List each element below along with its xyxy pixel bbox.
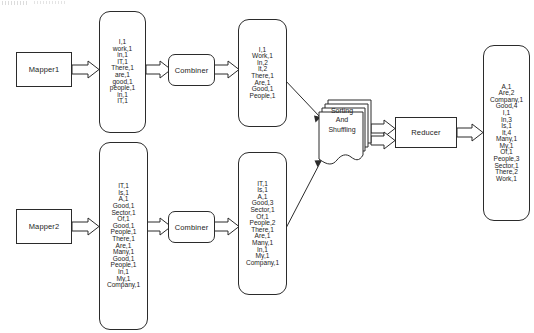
diagram-canvas: Mapper1 I,1 work,1 in,1 IT,1 There,1 are… [0,0,534,333]
reducer-output-list: A,1 Are,2 Company,1 Good,4 I,1 In,3 Is,1… [483,45,530,221]
list-item: Company,1 [246,260,279,267]
combiner2-output-list: IT,1 Is,1 A,1 Good,3 Sector,1 Of,1 Peopl… [238,152,287,295]
arrow-shuffle-to-reducer-2 [371,132,395,149]
arrow-combiner2-to-output [213,218,239,235]
list-item: Company,1 [107,282,140,289]
mapper1-box[interactable]: Mapper1 [16,52,72,87]
sorting-and-shuffling-label: Sorting And Shuffling [314,82,370,158]
mapper1-label: Mapper1 [29,65,60,74]
sorting-and-shuffling-box[interactable]: Sorting And Shuffling [318,96,374,172]
mapper1-output-list: I,1 work,1 in,1 IT,1 There,1 are,1 good,… [99,11,146,133]
arrow-mapper2-to-output [72,218,99,235]
combiner1-label: Combiner [175,66,209,75]
list-item: People,1 [249,93,275,100]
shuffle-line-1: Sorting [331,106,353,115]
list-item: IT,1 [117,98,128,105]
list-item: Work,1 [496,176,517,183]
arrow-mapper1-to-output [72,61,99,78]
arrow-reducer-to-output [457,124,483,141]
scan-artifact [2,0,66,6]
combiner2-label: Combiner [175,223,209,232]
mapper2-box[interactable]: Mapper2 [16,209,72,244]
arrow-combiner1-to-output [213,61,239,78]
mapper2-output-list: IT,1 Is,1 A,1 Good,1 Sector,1 Of,1 Good,… [99,142,148,330]
arrow-shuffle-to-reducer [371,120,395,137]
shuffle-line-3: Shuffling [328,125,355,134]
line-combiner2out-to-shuffle [285,161,321,230]
combiner1-output-list: I,1 Work,1 In,2 It,2 There,1 Are,1 Good,… [238,19,287,127]
reducer-box[interactable]: Reducer [395,117,457,148]
shuffle-line-2: And [336,115,348,124]
combiner2-box[interactable]: Combiner [168,211,215,243]
reducer-label: Reducer [411,128,440,137]
mapper2-label: Mapper2 [29,222,60,231]
combiner1-box[interactable]: Combiner [168,54,215,86]
